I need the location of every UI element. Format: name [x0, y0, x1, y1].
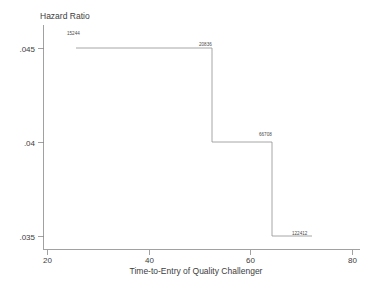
x-tick-label-40: 40: [145, 256, 154, 265]
x-tick-label-20: 20: [43, 256, 52, 265]
y-tick-label-035: .035: [19, 233, 35, 242]
chart-canvas: Hazard Ratio .045 .04 .035 20 40 60 80 T…: [0, 0, 370, 281]
x-tick-label-80: 80: [348, 256, 357, 265]
step-series-line: [76, 48, 312, 236]
y-tick-label-04: .04: [24, 139, 36, 148]
plot-title: Hazard Ratio: [40, 11, 90, 21]
y-tick-label-045: .045: [19, 45, 35, 54]
data-point-label-4: 122412: [292, 231, 308, 236]
data-point-label-3: 66708: [259, 132, 272, 137]
data-point-label-2: 20836: [199, 42, 212, 47]
data-point-label-1: 15244: [67, 31, 80, 36]
x-axis-title: Time-to-Entry of Quality Challenger: [130, 266, 263, 276]
hazard-ratio-chart: Hazard Ratio .045 .04 .035 20 40 60 80 T…: [0, 0, 370, 281]
x-tick-label-60: 60: [246, 256, 255, 265]
